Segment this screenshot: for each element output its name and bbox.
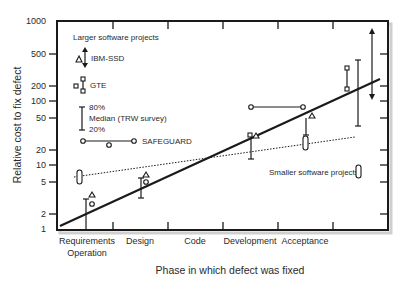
x-category-labels: Requirements Operation Design Code Devel…: [59, 236, 329, 258]
x-axis-title: Phase in which defect was fixed: [156, 264, 305, 276]
smaller-projects-legend-capsule-icon: [356, 165, 361, 178]
y-tick-label: 100: [31, 96, 46, 106]
category-label-design: Design: [126, 236, 154, 246]
category-label-acceptance: Acceptance: [281, 236, 328, 246]
y-tick-label: 1: [41, 224, 46, 234]
safeguard-legend-circle-icon: [81, 139, 86, 144]
gte-legend-square-icon: [81, 89, 85, 93]
safeguard-legend-circle-icon: [107, 143, 112, 148]
category-label-requirements: Requirements: [59, 236, 116, 246]
smaller-projects-label: Smaller software projects: [269, 168, 359, 177]
y-tick-label: 10: [36, 160, 46, 170]
safeguard-label: SAFEGUARD: [142, 137, 192, 146]
category-label-code: Code: [184, 236, 206, 246]
smaller-project-capsule-marker: [303, 136, 308, 150]
y-tick-label: 5: [41, 177, 46, 187]
y-tick-labels: 1000 500 200 100 50 20 10 5 2 1: [26, 16, 46, 234]
gte-square-marker: [345, 87, 349, 91]
gte-legend-square-icon: [74, 84, 78, 88]
y-tick-label: 200: [31, 81, 46, 91]
safeguard-circle-marker: [144, 180, 149, 185]
p20-label: 20%: [89, 125, 105, 134]
larger-projects-label: Larger software projects: [73, 33, 159, 42]
safeguard-circle-marker: [90, 202, 95, 207]
gte-legend-square-icon: [81, 77, 85, 81]
y-axis-title: Relative cost to fix defect: [11, 67, 23, 184]
category-label-operation: Operation: [67, 248, 107, 258]
y-tick-label: 2: [41, 209, 46, 219]
y-tick-label: 50: [36, 113, 46, 123]
gte-square-marker: [345, 66, 349, 70]
y-tick-label: 20: [36, 145, 46, 155]
median-trw-label: Median (TRW survey): [89, 114, 167, 123]
cost-to-fix-chart: 1000 500 200 100 50 20 10 5 2 1 Relative…: [0, 0, 409, 282]
smaller-project-capsule-marker: [77, 170, 82, 184]
safeguard-circle-marker: [301, 105, 306, 110]
ibm-ssd-label: IBM-SSD: [91, 54, 125, 63]
y-axis-ticks-left: [49, 54, 57, 214]
safeguard-legend-circle-icon: [132, 139, 137, 144]
gte-square-marker: [248, 133, 252, 137]
p80-label: 80%: [89, 103, 105, 112]
safeguard-circle-marker: [249, 105, 254, 110]
y-tick-label: 1000: [26, 16, 46, 26]
category-label-development: Development: [223, 236, 277, 246]
y-tick-label: 500: [31, 49, 46, 59]
gte-label: GTE: [90, 81, 106, 90]
